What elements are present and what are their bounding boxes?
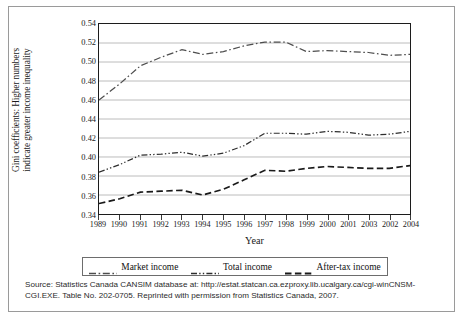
x-axis-tick-label: 2004 (394, 220, 428, 229)
y-axis-tick-label: 0.40 (67, 153, 96, 162)
y-axis-tick-label: 0.52 (67, 38, 96, 47)
legend-label: Market income (121, 262, 178, 272)
source-note-line-2: CGI.EXE. Table No. 202-0705. Reprinted w… (25, 290, 445, 301)
series-lines (99, 42, 410, 204)
series-line (99, 42, 410, 100)
y-axis-tick-label: 0.36 (67, 191, 96, 200)
plot-area (98, 23, 411, 215)
legend-item: After-tax income (285, 262, 381, 272)
x-axis-tick-mark (98, 215, 99, 220)
y-axis-label: Gini coefficients: Higher numbers indica… (11, 15, 45, 205)
y-axis-tick-label: 0.50 (67, 57, 96, 66)
y-axis-tick-label: 0.48 (67, 76, 96, 85)
x-axis-tick-mark (307, 215, 308, 220)
legend-line-swatch (89, 263, 117, 270)
y-axis-tick-label: 0.34 (67, 211, 96, 220)
y-axis-tick-label: 0.44 (67, 115, 96, 124)
x-axis-tick-mark (348, 215, 349, 220)
y-axis-tick-label: 0.38 (67, 172, 96, 181)
x-axis-tick-mark (140, 215, 141, 220)
chart-legend: Market incomeTotal incomeAfter-tax incom… (82, 257, 388, 276)
y-axis-label-line-1: Gini coefficients: Higher numbers (11, 15, 22, 205)
source-note: Source: Statistics Canada CANSIM databas… (25, 279, 445, 301)
y-axis-tick-label: 0.42 (67, 134, 96, 143)
legend-label: After-tax income (317, 262, 381, 272)
gridlines (99, 43, 410, 195)
x-axis-tick-mark (119, 215, 120, 220)
x-axis-tick-mark (390, 215, 391, 220)
x-axis-tick-mark (202, 215, 203, 220)
legend-line-swatch (191, 263, 219, 270)
legend-item: Market income (89, 262, 178, 272)
y-axis-label-line-2: indicate greater income inequality (22, 15, 33, 205)
y-axis-tick-labels: 0.340.360.380.400.420.440.460.480.500.52… (67, 23, 96, 215)
x-axis-tick-mark (410, 215, 411, 220)
series-line (99, 166, 410, 204)
chart-region: Gini coefficients: Higher numbers indica… (9, 7, 456, 269)
legend-label: Total income (223, 262, 272, 272)
x-axis-tick-mark (369, 215, 370, 220)
series-line (99, 131, 410, 172)
x-axis-tick-mark (223, 215, 224, 220)
x-axis-tick-mark (181, 215, 182, 220)
x-axis-tick-mark (161, 215, 162, 220)
x-axis-tick-mark (328, 215, 329, 220)
x-axis-tick-mark (244, 215, 245, 220)
y-axis-tick-label: 0.54 (67, 19, 96, 28)
legend-line-swatch (285, 263, 313, 270)
x-axis-tick-mark (265, 215, 266, 220)
y-axis-tick-label: 0.46 (67, 95, 96, 104)
x-axis-tick-labels: 1989199019911992199319941995199619971998… (69, 220, 444, 233)
x-axis-tick-mark (286, 215, 287, 220)
source-note-line-1: Source: Statistics Canada CANSIM databas… (25, 279, 445, 290)
x-axis-label: Year (98, 235, 411, 246)
legend-item: Total income (191, 262, 272, 272)
plot-svg (99, 24, 410, 214)
figure-container: Gini coefficients: Higher numbers indica… (8, 6, 455, 312)
